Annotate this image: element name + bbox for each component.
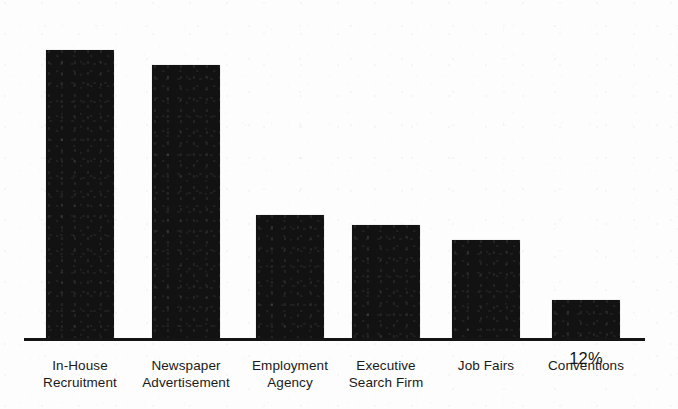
bar-group-employment-agency: 40% bbox=[256, 0, 324, 409]
bar-rect bbox=[452, 240, 520, 340]
x-axis-line bbox=[24, 338, 645, 341]
category-label-conventions: Conventions bbox=[530, 357, 642, 374]
category-label-newspaper-advertisement: Newspaper Advertisement bbox=[128, 357, 244, 391]
bar-rect bbox=[46, 50, 114, 340]
bar-group-in-house-recruitment: 95% bbox=[46, 0, 114, 409]
bar-group-executive-search-firm: 37% bbox=[352, 0, 420, 409]
bar-chart-figure: 95% 90% 40% 37% 32% 12% bbox=[0, 0, 678, 409]
bar-group-conventions: 12% bbox=[552, 0, 620, 409]
plot-area: 95% 90% 40% 37% 32% 12% bbox=[0, 0, 678, 409]
bar-rect bbox=[152, 65, 220, 340]
bar-rect bbox=[256, 215, 324, 340]
category-label-in-house-recruitment: In-House Recruitment bbox=[24, 357, 136, 391]
bar-rect bbox=[352, 225, 420, 340]
bar-group-newspaper-advertisement: 90% bbox=[152, 0, 220, 409]
category-label-job-fairs: Job Fairs bbox=[430, 357, 542, 374]
category-label-executive-search-firm: Executive Search Firm bbox=[330, 357, 442, 391]
bar-group-job-fairs: 32% bbox=[452, 0, 520, 409]
bar-rect bbox=[552, 300, 620, 340]
